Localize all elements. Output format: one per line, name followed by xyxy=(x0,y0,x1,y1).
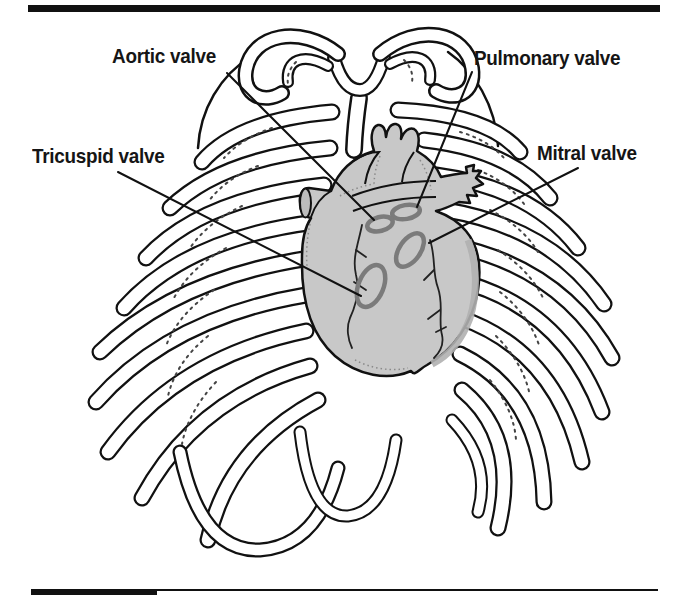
vena-cava-opening xyxy=(300,189,311,218)
figure-page: Aortic valve Pulmonary valve Tricuspid v… xyxy=(0,0,688,597)
left-ribs xyxy=(96,112,332,540)
bottom-rule-thick xyxy=(31,589,157,595)
pulmonary-valve-label: Pulmonary valve xyxy=(474,46,620,70)
sternum xyxy=(354,98,359,150)
bottom-rule-thin xyxy=(157,589,658,591)
chest-heart-illustration xyxy=(0,0,688,597)
heart xyxy=(300,124,483,376)
tricuspid-valve-label: Tricuspid valve xyxy=(32,144,165,168)
clavicle-loops xyxy=(246,35,473,98)
heart-silhouette xyxy=(300,124,483,376)
mitral-valve-label: Mitral valve xyxy=(537,141,637,165)
aortic-valve-label: Aortic valve xyxy=(112,44,216,68)
